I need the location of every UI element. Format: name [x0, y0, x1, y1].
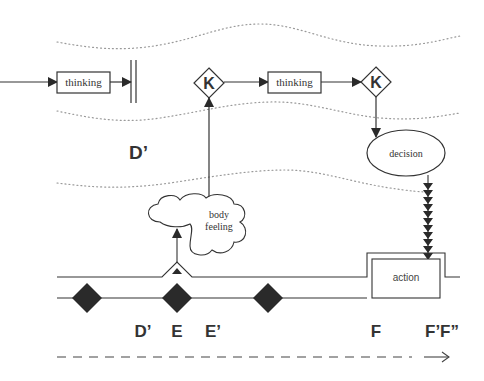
action-label: action	[393, 272, 420, 283]
region-label-d-prime: D’	[129, 142, 148, 163]
k-label-2: K	[370, 74, 382, 91]
timeline-diamond-3	[253, 283, 283, 313]
label-f: F	[371, 322, 381, 341]
thinking-label-2: thinking	[276, 76, 313, 88]
label-e-prime: E’	[205, 322, 221, 341]
body-feeling-line2: feeling	[205, 221, 233, 232]
diagram-svg: thinking thinking K K decision D’ body f…	[0, 0, 484, 381]
dotted-wave-middle	[57, 102, 460, 121]
k-label-1: K	[203, 75, 215, 92]
body-feeling-line1: body	[209, 209, 229, 220]
label-d-prime: D’	[135, 322, 152, 341]
timeline-diamond-2	[162, 283, 192, 313]
thinking-label-1: thinking	[65, 76, 102, 88]
diagram-canvas: thinking thinking K K decision D’ body f…	[0, 0, 484, 381]
label-e: E	[171, 322, 182, 341]
dotted-wave-lower	[57, 170, 430, 192]
timeline-diamond-1	[72, 283, 102, 313]
decision-label: decision	[389, 148, 422, 159]
bump-arrowhead	[172, 268, 182, 274]
dotted-wave-top	[57, 24, 460, 49]
time-arrow	[57, 352, 449, 362]
label-f-prime-f-double: F’F”	[425, 322, 459, 341]
